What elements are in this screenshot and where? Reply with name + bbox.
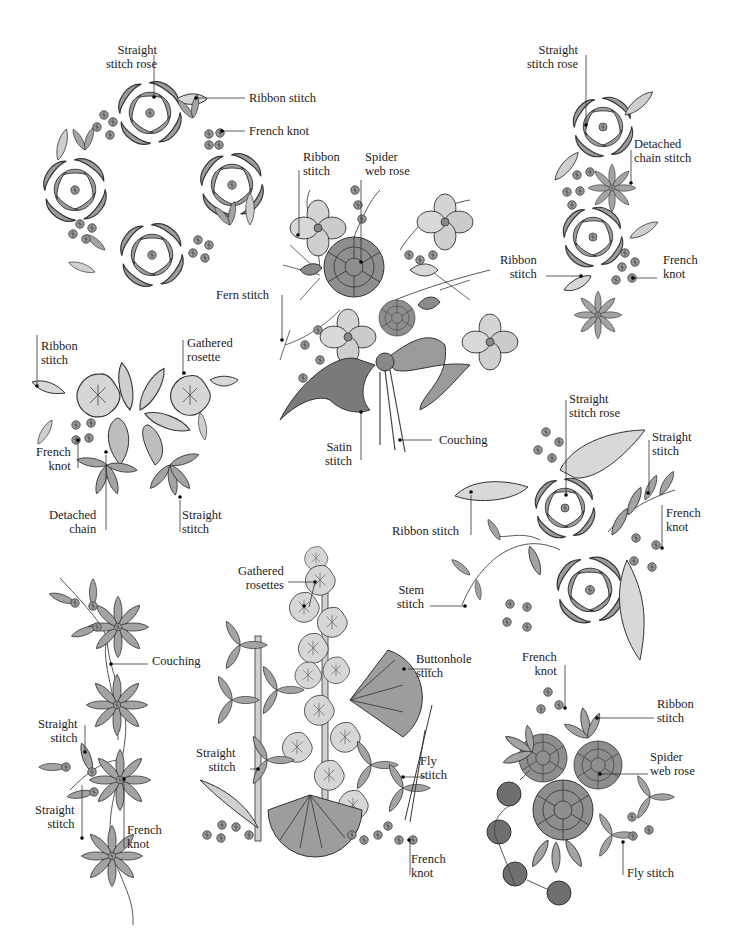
label-hollyhock-gathered-rosettes: Gathered rosettes — [238, 564, 284, 592]
label-bouquet-fern-stitch: Fern stitch — [216, 288, 269, 302]
label-vine-french-knot: French knot — [127, 823, 162, 851]
label-spider-cluster-fly-stitch: Fly stitch — [627, 866, 674, 880]
label-wreath-french-knot: French knot — [249, 124, 309, 138]
label-spider-cluster-spider-web-rose: Spider web rose — [650, 750, 695, 778]
label-hollyhock-buttonhole-stitch: Buttonhole stitch — [416, 652, 472, 680]
label-vine-straight-stitch-upper: Straight stitch — [38, 717, 78, 745]
label-hollyhock-french-knot: French knot — [411, 852, 446, 880]
label-branch-ribbon-stitch: Ribbon stitch — [392, 524, 459, 538]
daisy-vine-motif — [39, 578, 151, 925]
label-bouquet-spider-web-rose: Spider web rose — [365, 150, 410, 178]
vertical-spray-motif — [546, 55, 660, 339]
label-spray-straight-stitch-rose: Straight stitch rose — [527, 43, 578, 71]
label-spider-cluster-ribbon-stitch: Ribbon stitch — [657, 697, 694, 725]
label-spray-ribbon-stitch: Ribbon stitch — [500, 253, 537, 281]
label-hollyhock-fly-stitch: Fly stitch — [420, 754, 447, 782]
label-vine-straight-stitch-lower: Straight stitch — [35, 803, 75, 831]
label-cluster-gathered-rosette: Gathered rosette — [187, 336, 233, 364]
label-spray-detached-chain-stitch: Detached chain stitch — [634, 137, 691, 165]
label-cluster-detached-chain: Detached chain — [49, 508, 96, 536]
label-branch-straight-stitch-rose: Straight stitch rose — [569, 392, 620, 420]
label-bouquet-couching: Couching — [439, 433, 488, 447]
label-vine-couching: Couching — [152, 654, 201, 668]
wreath-motif — [38, 55, 269, 292]
label-hollyhock-straight-stitch: Straight stitch — [196, 746, 236, 774]
label-wreath-ribbon-stitch: Ribbon stitch — [249, 91, 316, 105]
label-bouquet-ribbon-stitch: Ribbon stitch — [303, 150, 340, 178]
stitch-illustration — [0, 0, 743, 952]
bouquet-motif — [280, 170, 518, 460]
label-branch-stem-stitch: Stem stitch — [397, 583, 424, 611]
label-cluster-ribbon-stitch: Ribbon stitch — [41, 339, 78, 367]
label-cluster-straight-stitch: Straight stitch — [182, 508, 222, 536]
label-branch-straight-stitch: Straight stitch — [652, 430, 692, 458]
label-cluster-french-knot: French knot — [36, 445, 71, 473]
label-bouquet-satin-stitch: Satin stitch — [325, 440, 352, 468]
label-wreath-straight-stitch-rose: Straight stitch rose — [106, 43, 157, 71]
label-spray-french-knot: French knot — [663, 253, 698, 281]
label-spider-cluster-french-knot: French knot — [522, 650, 557, 678]
label-branch-french-knot: French knot — [666, 506, 701, 534]
